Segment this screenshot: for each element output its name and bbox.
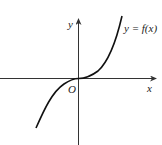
- x-axis-label: x: [146, 82, 152, 94]
- y-axis-label: y: [67, 18, 73, 30]
- function-graph: y x O y = f(x): [0, 0, 162, 145]
- curve-label: y = f(x): [123, 22, 157, 35]
- origin-label: O: [68, 83, 76, 95]
